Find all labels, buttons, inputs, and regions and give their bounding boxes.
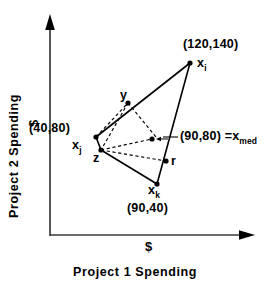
dashed-edge-z-xmed [101,139,152,150]
x-axis-unit-symbol: $ [145,240,152,253]
solid-edge-xk-z [101,150,157,184]
x-axis-title: Project 1 Spending [73,266,197,279]
label-point-z: z [93,152,99,165]
point-marker-xmed [149,136,154,141]
label-xmed-subscript: med [239,136,256,146]
point-marker-r [163,158,168,163]
median-spending-diagram: (120,140) xi (40,80) xj xk (90,40) (90,8… [0,0,278,292]
dashed-edge-xj-y [96,103,128,137]
label-point-xi-subscript: i [204,63,206,73]
label-xmed-coordinates: (90,80) = [180,129,232,143]
y-axis-arrow-icon [45,14,55,30]
point-marker-xj [93,134,98,139]
xmed-arrow-icon [156,137,161,141]
label-point-r: r [171,155,176,168]
label-point-xj: xj [72,139,82,154]
label-point-xk: xk [148,184,160,199]
y-axis-title: Project 2 Spending [8,94,21,218]
label-point-xj-subscript: j [79,145,81,155]
label-xmed: (90,80) =xmed [180,130,257,145]
y-axis-unit-symbol: $ [27,120,40,127]
label-xi-coordinates: (120,140) [183,38,238,51]
solid-edge-xj-xi [96,63,190,137]
label-point-xk-subscript: k [155,190,160,200]
x-axis-arrow-icon [239,230,255,240]
label-point-xi: xi [197,57,207,72]
dashed-edge-y-z [101,103,128,150]
label-xk-coordinates: (90,40) [127,202,168,215]
label-point-y: y [120,89,127,102]
point-marker-xi [187,60,192,65]
dashed-edges-group [96,103,166,161]
xmed-leader-group [156,137,178,141]
